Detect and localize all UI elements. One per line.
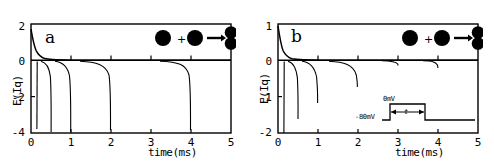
dimer-icon [472,26,483,50]
reaction-arrow-icon [454,35,473,42]
inset-holding-level-label: -80mV [355,113,375,121]
inset-duration-label: t [404,108,408,116]
plus-sign: + [177,33,186,46]
reaction-arrow-icon [207,35,226,42]
panel-b-reaction-cartoon: + [399,25,483,51]
panel-b: E(Iq) 1 0 -1 -2 0 1 2 3 4 5 time(ms) b [247,0,494,167]
panel-a-spike-3 [55,61,71,132]
panel-b-spike-6 [423,61,438,68]
panel-a-spike-2 [41,61,51,132]
dimer-icon [225,26,236,50]
monomer-circle-left [155,30,171,46]
panel-a: E(Iq) 2 0 -2 -4 0 1 2 3 4 5 time(ms) a [0,0,247,167]
monomer-circle-right [434,30,450,46]
panel-b-spike-4 [329,61,357,87]
panel-b-spike-3 [302,61,318,103]
panel-a-spike-4 [80,61,111,130]
voltage-protocol-inset [382,104,475,120]
panel-b-spike-2 [288,61,298,119]
plus-sign: + [424,33,433,46]
figure-container: E(Iq) 2 0 -2 -4 0 1 2 3 4 5 time(ms) a [0,0,494,167]
panel-a-spike-5 [160,61,191,130]
inset-pulse-level-label: 0mV [383,95,395,103]
panel-b-spike-5 [382,61,398,66]
monomer-circle-right [187,30,203,46]
monomer-circle-left [402,30,418,46]
panel-a-reaction-cartoon: + [152,25,236,51]
